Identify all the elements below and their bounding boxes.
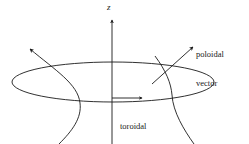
poloidal-vector-label: poloidal vector — [196, 30, 224, 108]
poloidal-vector-label-line2: vector — [196, 79, 224, 89]
toroidal-vector-label: toroidal vector — [120, 102, 146, 144]
toroidal-vector-label-line1: toroidal — [120, 122, 146, 132]
torus-ellipse — [12, 62, 214, 102]
toroidal-poloidal-diagram: z poloidal vector toroidal vector — [0, 0, 249, 144]
z-axis-label: z — [107, 2, 111, 12]
poloidal-vector-arrow — [152, 47, 193, 84]
poloidal-vector-label-line1: poloidal — [196, 50, 224, 60]
